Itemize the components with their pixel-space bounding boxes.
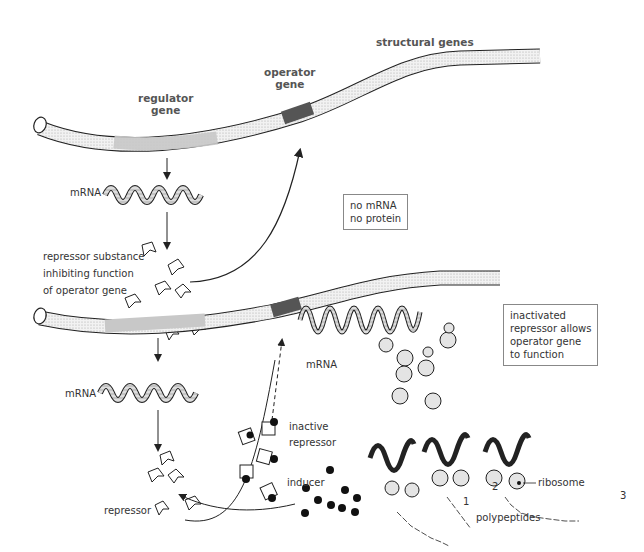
label-polypeptide-3: 3	[620, 490, 626, 502]
label-inactive-repressor: inactive repressor	[289, 419, 336, 451]
label-line: of operator gene	[43, 282, 144, 299]
ribosomes-on-mrna	[385, 470, 525, 497]
label-polypeptide-2: 2	[492, 481, 498, 493]
label-repressor: repressor	[104, 505, 151, 517]
note-box-inactivated-repressor: inactivated repressor allows operator ge…	[503, 304, 598, 366]
label-repressor-substance: repressor substance inhibiting function …	[43, 248, 144, 299]
label-line: gene	[138, 104, 193, 116]
label-polypeptides: polypeptides	[476, 512, 540, 524]
operon-diagram: regulator gene operator gene structural …	[0, 0, 644, 552]
label-mrna-top: mRNA	[70, 187, 101, 199]
polysome-mrnas	[370, 435, 529, 471]
note-line: no protein	[350, 212, 401, 225]
label-polypeptide-1: 1	[463, 496, 469, 508]
note-line: no mRNA	[350, 199, 401, 212]
inactive-repressor-shapes	[238, 418, 278, 502]
label-structural-genes: structural genes	[376, 36, 474, 48]
label-line: inactive	[289, 419, 336, 435]
label-line: repressor substance	[43, 248, 144, 265]
label-line: operator	[264, 66, 316, 78]
label-regulator-gene: regulator gene	[138, 92, 193, 116]
note-line: to function	[510, 348, 591, 361]
note-line: inactivated	[510, 309, 591, 322]
repressor-shapes-bottom	[148, 451, 201, 515]
label-line: gene	[264, 78, 316, 90]
label-operator-gene: operator gene	[264, 66, 316, 90]
note-line: operator gene	[510, 335, 591, 348]
label-inducer: inducer	[287, 477, 325, 489]
label-line: inhibiting function	[43, 265, 144, 282]
label-mrna-bottom-right: mRNA	[306, 359, 337, 371]
note-box-no-mrna: no mRNA no protein	[343, 194, 408, 230]
inducer-molecules	[301, 466, 361, 517]
free-ribosomes	[379, 323, 456, 409]
label-line: repressor	[289, 435, 336, 451]
label-ribosome: ribosome	[538, 477, 585, 489]
label-line: regulator	[138, 92, 193, 104]
note-line: repressor allows	[510, 322, 591, 335]
label-mrna-bottom-left: mRNA	[65, 388, 96, 400]
